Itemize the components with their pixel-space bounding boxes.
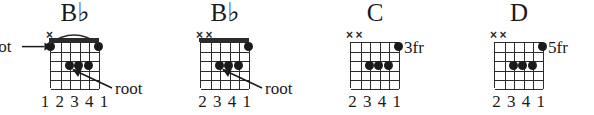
fretboard-grid: ××5fr (494, 42, 542, 88)
muted-string-x-icon: × (500, 29, 507, 41)
chord-diagram-chord-bb-barre-e-shape: B♭×1 2 3 4 1rootroot (0, 0, 150, 115)
string-line (211, 43, 212, 89)
finger-dot (365, 61, 374, 70)
chord-name-accidental: ♭ (77, 0, 89, 27)
fret-line (495, 71, 543, 72)
chord-name: D (444, 0, 594, 28)
finger-dot (215, 61, 224, 70)
chord-name: B♭ (0, 0, 150, 28)
finger-dot (374, 61, 383, 70)
fret-position-label: 5fr (548, 39, 568, 56)
fret-line (201, 52, 249, 53)
fret-line (201, 89, 249, 90)
fret-line (495, 89, 543, 90)
finger-dot (518, 61, 527, 70)
finger-dot (394, 42, 403, 51)
chord-chart-sheet: B♭×1 2 3 4 1rootrootB♭××2 3 4 1rootC××3f… (0, 0, 594, 115)
chord-name: C (300, 0, 450, 28)
finger-dot (84, 61, 93, 70)
fret-line (495, 80, 543, 81)
fretboard-grid: ×× (200, 42, 248, 88)
fingering-numbers: 2 3 4 1 (300, 92, 450, 112)
fret-line (351, 71, 399, 72)
chord-name-accidental: ♭ (227, 0, 239, 27)
fret-line (351, 52, 399, 53)
chord-name-root: B (211, 0, 228, 26)
fret-line (51, 71, 99, 72)
fret-line (351, 80, 399, 81)
chord-name-root: B (61, 0, 78, 26)
finger-dot (244, 42, 253, 51)
finger-dot (384, 61, 393, 70)
muted-string-x-icon: × (356, 29, 363, 41)
muted-string-x-icon: × (346, 29, 353, 41)
muted-string-x-icon: × (490, 29, 497, 41)
fret-line (495, 52, 543, 53)
finger-dot (234, 61, 243, 70)
finger-dot (65, 61, 74, 70)
fretboard-grid: ××3fr (350, 42, 398, 88)
fret-line (51, 52, 99, 53)
chord-diagram-chord-bb-barre-a-shape: B♭××2 3 4 1root (150, 0, 300, 115)
fret-line (51, 80, 99, 81)
finger-dot (538, 42, 547, 51)
fret-line (201, 80, 249, 81)
chord-name: B♭ (150, 0, 300, 28)
chord-name-root: D (510, 0, 528, 26)
string-line (61, 43, 62, 89)
fret-line (351, 89, 399, 90)
fret-position-label: 3fr (404, 39, 424, 56)
barre-arc (46, 29, 102, 45)
fret-line (51, 89, 99, 90)
muted-string-x-icon: × (206, 29, 213, 41)
chord-diagram-chord-d-5fr: D××5fr2 3 4 1 (444, 0, 594, 115)
fret-line (201, 71, 249, 72)
string-line (505, 43, 506, 89)
finger-dot (224, 61, 233, 70)
finger-dot (74, 61, 83, 70)
chord-diagram-chord-c-3fr: C××3fr2 3 4 1 (300, 0, 450, 115)
chord-name-root: C (367, 0, 384, 26)
fretboard-grid: × (50, 42, 98, 88)
finger-dot (528, 61, 537, 70)
fingering-numbers: 2 3 4 1 (444, 92, 594, 112)
string-line (361, 43, 362, 89)
root-label: root (265, 80, 292, 98)
finger-dot (509, 61, 518, 70)
root-label: root (0, 38, 11, 56)
root-label: root (115, 80, 142, 98)
muted-string-x-icon: × (196, 29, 203, 41)
